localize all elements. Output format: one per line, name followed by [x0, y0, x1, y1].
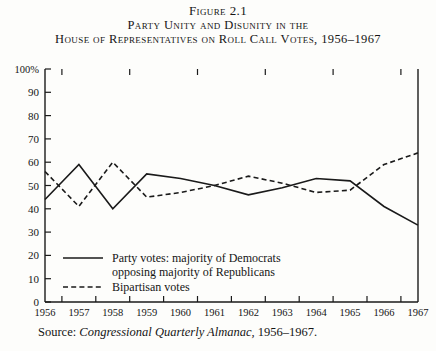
y-axis-labels: 0 10 20 30 40 50 60 70 80 90 100%	[15, 64, 40, 308]
x-label-1964: 1964	[306, 307, 328, 318]
y-axis-ticks	[45, 69, 51, 302]
x-label-1967: 1967	[407, 307, 428, 318]
y-label-20: 20	[28, 249, 40, 261]
source-note: Source: Congressional Quarterly Almanac,…	[38, 325, 317, 340]
series-line-bipartisan-votes	[45, 153, 418, 207]
series-line-party-votes	[45, 165, 418, 226]
source-publication: Congressional Quarterly Almanac,	[79, 325, 254, 339]
source-years: 1956–1967.	[255, 325, 318, 339]
x-label-1961: 1961	[204, 307, 225, 318]
legend-label-party-votes-line-2: opposing majority of Republicans	[112, 265, 275, 279]
line-chart: 0 10 20 30 40 50 60 70 80 90 100%	[0, 60, 436, 320]
figure-title-block: Figure 2.1 Party Unity and Disunity in t…	[0, 4, 436, 46]
x-label-1960: 1960	[170, 307, 191, 318]
y-label-80: 80	[28, 110, 40, 122]
x-label-1958: 1958	[102, 307, 123, 318]
figure-number: Figure 2.1	[0, 4, 436, 18]
legend-label-party-votes-line-1: Party votes: majority of Democrats	[112, 251, 281, 265]
x-axis-labels: 1956 1957 1958 1959 1960 1961 1962 1963 …	[35, 307, 429, 318]
x-label-1962: 1962	[238, 307, 259, 318]
x-label-1963: 1963	[272, 307, 293, 318]
source-prefix: Source:	[38, 325, 79, 339]
y-label-30: 30	[28, 226, 40, 238]
legend-label-bipartisan-votes: Bipartisan votes	[112, 280, 190, 294]
y-label-40: 40	[28, 203, 40, 215]
figure-page: Figure 2.1 Party Unity and Disunity in t…	[0, 0, 436, 351]
y-label-100: 100%	[15, 64, 40, 75]
y-label-90: 90	[28, 86, 40, 98]
x-label-1956: 1956	[35, 307, 56, 318]
y-label-70: 70	[28, 133, 40, 145]
y-label-50: 50	[28, 180, 40, 192]
x-label-1959: 1959	[136, 307, 157, 318]
figure-title-line-1: Party Unity and Disunity in the	[0, 18, 436, 32]
figure-title-line-2: House of Representatives on Roll Call Vo…	[0, 32, 436, 46]
x-label-1965: 1965	[340, 307, 361, 318]
x-label-1966: 1966	[374, 307, 395, 318]
y-label-10: 10	[28, 273, 40, 285]
chart-container: 0 10 20 30 40 50 60 70 80 90 100%	[0, 60, 436, 320]
chart-legend: Party votes: majority of Democrats oppos…	[63, 251, 281, 294]
y-label-60: 60	[28, 156, 40, 168]
x-label-1957: 1957	[68, 307, 89, 318]
